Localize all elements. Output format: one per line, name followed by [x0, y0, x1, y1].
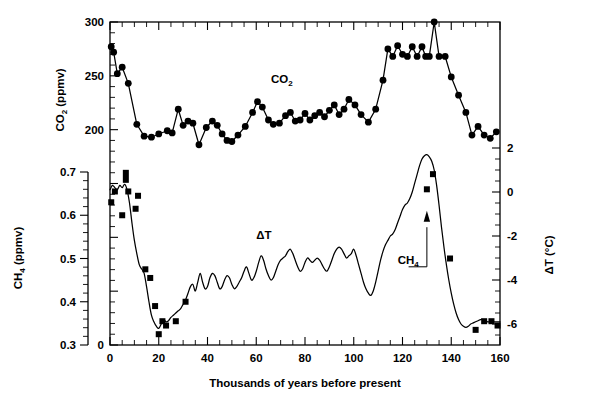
- ch4-data-point: [424, 186, 430, 192]
- co2-axis-title-text: CO2 (ppmv): [54, 68, 69, 131]
- co2-data-point: [442, 53, 449, 60]
- ch4-data-point: [488, 318, 494, 324]
- ch4-data-point: [173, 318, 179, 324]
- dt-tick-label: -4: [507, 274, 518, 286]
- co2-data-point: [228, 138, 235, 145]
- co2-series-line: [111, 22, 496, 145]
- x-tick-label: 140: [442, 352, 461, 364]
- co2-data-point: [493, 128, 500, 135]
- co2-data-point: [455, 92, 462, 99]
- ch4-data-point: [156, 331, 162, 337]
- co2-data-point: [302, 110, 309, 117]
- paleoclimate-chart-svg: 020406080100120140160Thousands of years …: [0, 0, 601, 398]
- ch4-data-point: [135, 193, 141, 199]
- co2-data-point: [414, 53, 421, 60]
- co2-data-point: [189, 120, 196, 127]
- co2-data-point: [270, 121, 277, 128]
- co2-tick-label: 250: [85, 70, 104, 82]
- x-tick-label: 80: [299, 352, 312, 364]
- co2-data-point: [404, 53, 411, 60]
- ch4-tick-label: 0.4: [60, 296, 77, 308]
- co2-data-point: [125, 80, 132, 87]
- x-axis-title: Thousands of years before present: [209, 377, 401, 389]
- co2-data-point: [481, 132, 488, 139]
- ch4-data-point: [133, 206, 139, 212]
- ch4-data-point: [495, 323, 501, 329]
- ch4-data-point: [142, 266, 148, 272]
- ch4-series-label: CH4: [398, 254, 420, 269]
- co2-data-point: [380, 77, 387, 84]
- dt-series-line: [110, 155, 500, 329]
- ch4-tick-label: 0.7: [60, 166, 76, 178]
- dt-tick-label: -2: [507, 230, 517, 242]
- co2-markers: [108, 19, 500, 149]
- co2-data-point: [462, 109, 469, 116]
- ch4-data-point: [163, 323, 169, 329]
- co2-data-point: [436, 53, 443, 60]
- co2-data-point: [419, 43, 426, 50]
- dt-series-label: ΔT: [256, 229, 271, 241]
- co2-data-point: [394, 42, 401, 49]
- co2-data-point: [196, 141, 203, 148]
- co2-data-point: [155, 131, 162, 138]
- co2-data-point: [203, 124, 210, 131]
- co2-data-point: [259, 104, 266, 111]
- co2-data-point: [254, 98, 261, 105]
- ch4-tick-label: 0.3: [60, 339, 76, 351]
- co2-data-point: [175, 106, 182, 113]
- dt-axis: -6-4-202: [492, 142, 518, 335]
- co2-data-point: [409, 43, 416, 50]
- co2-data-point: [448, 74, 455, 81]
- ch4-leader-arrow-icon: [424, 211, 430, 222]
- ch4-data-point: [125, 188, 131, 194]
- co2-data-point: [469, 132, 476, 139]
- chart-figure: 020406080100120140160Thousands of years …: [0, 0, 601, 398]
- co2-data-point: [169, 130, 176, 137]
- co2-data-point: [365, 119, 372, 126]
- ch4-data-point: [119, 212, 125, 218]
- ch4-data-point: [108, 199, 114, 205]
- co2-data-point: [487, 135, 494, 142]
- ch4-data-point: [147, 275, 153, 281]
- x-tick-label: 100: [344, 352, 363, 364]
- co2-data-point: [331, 102, 338, 109]
- co2-tick-label: 300: [85, 16, 104, 28]
- co2-data-point: [133, 121, 140, 128]
- x-tick-label: 160: [490, 352, 509, 364]
- co2-data-point: [426, 53, 433, 60]
- x-tick-label: 120: [393, 352, 412, 364]
- x-tick-label: 0: [107, 352, 113, 364]
- co2-data-point: [341, 106, 348, 113]
- ch4-tick-label: 0.5: [60, 253, 77, 265]
- co2-data-point: [119, 64, 126, 71]
- x-tick-label: 60: [250, 352, 263, 364]
- dt-tick-label: 2: [507, 142, 513, 154]
- co2-data-point: [235, 132, 242, 139]
- co2-data-point: [372, 106, 379, 113]
- ch4-data-point: [473, 327, 479, 333]
- plot-frame: [110, 22, 500, 345]
- co2-data-point: [345, 96, 352, 103]
- co2-data-point: [358, 111, 365, 118]
- dt-tick-label: -6: [507, 318, 517, 330]
- ch4-data-point: [183, 299, 189, 305]
- x-tick-label: 40: [201, 352, 214, 364]
- co2-data-point: [326, 107, 333, 114]
- co2-data-point: [214, 122, 221, 129]
- co2-tick-label: 0: [98, 339, 104, 351]
- co2-data-point: [297, 117, 304, 124]
- co2-data-point: [110, 49, 117, 56]
- co2-data-point: [352, 102, 359, 109]
- co2-series-label: CO2: [271, 73, 293, 88]
- co2-data-point: [219, 131, 226, 138]
- co2-axis: 3002502000: [85, 16, 118, 351]
- co2-data-point: [321, 113, 328, 120]
- co2-data-point: [336, 111, 343, 118]
- co2-data-point: [287, 109, 294, 116]
- co2-data-point: [141, 133, 148, 140]
- ch4-data-point: [152, 303, 158, 309]
- co2-data-point: [384, 46, 391, 53]
- co2-data-point: [114, 70, 121, 77]
- ch4-data-point: [123, 170, 129, 183]
- x-tick-label: 20: [152, 352, 165, 364]
